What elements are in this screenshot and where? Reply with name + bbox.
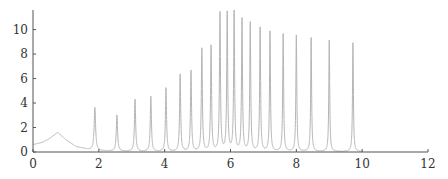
spectrum-line xyxy=(33,10,362,151)
line-chart: 024681012 0246810 xyxy=(0,0,448,179)
y-tick-label: 0 xyxy=(20,145,28,159)
x-tick-label: 12 xyxy=(420,157,435,171)
data-series xyxy=(33,10,362,151)
y-tick-label: 10 xyxy=(13,23,28,37)
x-tick-label: 0 xyxy=(29,157,37,171)
y-tick-label: 8 xyxy=(20,47,28,61)
y-tick-label: 6 xyxy=(20,72,28,86)
x-tick-label: 4 xyxy=(161,157,169,171)
axes xyxy=(33,10,428,152)
x-tick-label: 6 xyxy=(227,157,235,171)
x-tick-label: 8 xyxy=(293,157,301,171)
y-tick-label: 4 xyxy=(20,96,28,110)
x-tick-label: 10 xyxy=(355,157,370,171)
y-tick-label: 2 xyxy=(20,121,28,135)
x-tick-label: 2 xyxy=(95,157,103,171)
